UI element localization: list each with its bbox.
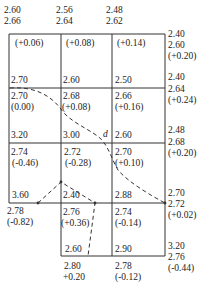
cell-r3c2-bottom: 2.40 (63, 190, 80, 201)
right-label-2b: 2.64 (168, 84, 185, 95)
bottom-label-2a: 2.78 (115, 261, 132, 272)
top-label-3a: 2.48 (106, 5, 123, 16)
curve-label-d: d (103, 129, 108, 140)
cell-r1c3-top: (+0.14) (117, 38, 145, 49)
cell-r3c2-mid: (-0.28) (65, 158, 91, 169)
bottom-label-2b: (-0.12) (115, 272, 141, 283)
right-label-5b: 2.76 (168, 252, 185, 263)
cell-r1c1-top: (+0.06) (15, 38, 43, 49)
right-label-1c: (+0.20) (168, 51, 196, 62)
cell-r2c3-top: 2.66 (115, 91, 132, 102)
cell-r3c3-bottom: 2.88 (115, 190, 132, 201)
left-below-a: 2.78 (7, 206, 24, 217)
right-label-3a: 2.48 (168, 125, 185, 136)
top-label-2b: 2.64 (56, 16, 73, 27)
right-label-4c: (+0.02) (168, 210, 196, 221)
cell-r3c1-top: 2.74 (11, 147, 28, 158)
cell-r3c2-top: 2.72 (64, 147, 81, 158)
cell-r1c1-bottom: 2.70 (11, 75, 28, 86)
cell-r2c3-mid: (+0.16) (115, 102, 143, 113)
right-label-2a: 2.40 (168, 72, 185, 83)
cell-r2c1-top: 2.70 (11, 91, 28, 102)
cell-r4c3-top: 2.74 (115, 207, 132, 218)
right-label-5c: (-0.44) (168, 263, 194, 274)
cell-r2c2-mid: (+0.08) (62, 102, 90, 113)
cell-r2c2-bottom: 3.00 (63, 130, 80, 141)
cell-r3c1-bottom: 3.60 (12, 190, 29, 201)
cell-r1c2-top: (+0.08) (66, 38, 94, 49)
right-label-2c: (+0.24) (168, 95, 196, 106)
right-label-5a: 3.20 (168, 241, 185, 252)
right-label-1a: 2.40 (168, 29, 185, 40)
right-label-3c: (+0.20) (168, 148, 196, 159)
cell-r3c3-top: 2.70 (115, 147, 132, 158)
cell-r4c2-top: 2.76 (63, 207, 80, 218)
cell-r3c1-mid: (-0.46) (12, 158, 38, 169)
cell-r4c2-mid: (+0.36) (61, 218, 89, 229)
top-label-3b: 2.62 (106, 16, 123, 27)
left-below-b: (-0.82) (7, 217, 33, 228)
cell-r1c3-bottom: 2.50 (115, 75, 132, 86)
right-label-4a: 2.70 (168, 188, 185, 199)
bottom-label-1b: +0.20 (63, 272, 85, 283)
cell-r4c3-mid: (-0.14) (115, 218, 141, 229)
top-label-2a: 2.56 (56, 5, 73, 16)
cell-r2c1-bottom: 3.20 (11, 130, 28, 141)
right-label-1b: 2.60 (168, 40, 185, 51)
cell-r2c3-bottom: 2.60 (115, 130, 132, 141)
right-label-4b: 2.72 (168, 199, 185, 210)
cell-r3c3-mid: (+0.10) (115, 158, 143, 169)
cell-r2c2-top: 2.68 (63, 91, 80, 102)
top-label-1a: 2.60 (4, 5, 21, 16)
top-label-1b: 2.66 (4, 16, 21, 27)
cell-r4c2-bottom: 2.60 (65, 244, 82, 255)
bottom-label-1a: 2.80 (64, 261, 81, 272)
cell-r2c1-mid: (0.00) (11, 102, 34, 113)
right-label-3b: 2.68 (168, 137, 185, 148)
cell-r1c2-bottom: 2.60 (63, 75, 80, 86)
cell-r4c3-bottom: 2.90 (115, 244, 132, 255)
